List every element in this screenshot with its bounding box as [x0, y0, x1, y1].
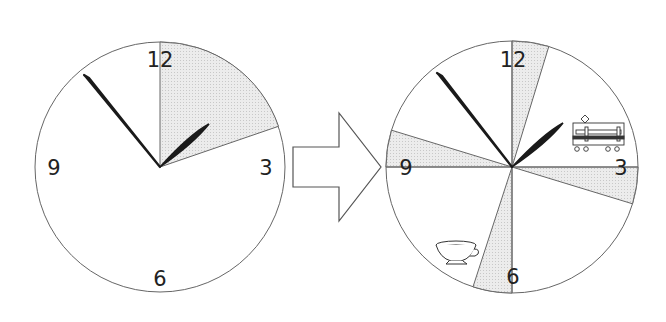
numeral-6: 6 [506, 265, 519, 289]
numeral-12: 12 [500, 48, 527, 72]
arrow-right-icon [293, 113, 381, 221]
left-clock: 12 3 6 9 [35, 42, 285, 292]
right-clock: 12 3 6 9 [386, 41, 638, 293]
numeral-9: 9 [47, 156, 60, 180]
numeral-9: 9 [399, 156, 412, 180]
numeral-3: 3 [614, 156, 627, 180]
clock-diagram: 12 3 6 9 12 3 6 9 [0, 0, 666, 322]
numeral-6: 6 [153, 267, 166, 291]
numeral-3: 3 [259, 156, 272, 180]
numeral-12: 12 [147, 48, 174, 72]
